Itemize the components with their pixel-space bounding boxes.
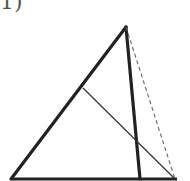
left-side <box>11 27 126 179</box>
triangle-diagram <box>0 0 190 181</box>
thin-diagonal <box>83 88 175 179</box>
